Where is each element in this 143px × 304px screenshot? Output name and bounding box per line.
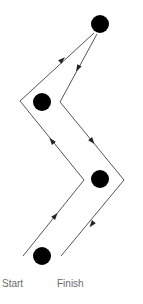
start-label: Start (2, 278, 23, 290)
node-bottom (33, 247, 51, 265)
node-upper-left (33, 93, 51, 111)
obstacle-nodes (33, 15, 109, 265)
node-top (91, 15, 109, 33)
path-diagram (0, 0, 143, 304)
node-lower-right (91, 170, 109, 188)
finish-label: Finish (57, 278, 84, 290)
outbound-path (20, 33, 94, 256)
arrowhead-icon (88, 220, 96, 229)
arrowhead-icon (74, 64, 82, 73)
direction-arrows (48, 55, 97, 228)
